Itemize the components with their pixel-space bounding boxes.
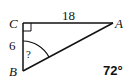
side-ab <box>23 23 113 71</box>
answer-label: 72° <box>103 63 123 78</box>
vertex-label-a: A <box>114 16 123 31</box>
triangle-diagram: C A B 18 6 ? 72° <box>0 0 138 83</box>
unknown-angle-label: ? <box>26 48 31 60</box>
right-angle-marker <box>23 23 31 31</box>
vertex-label-c: C <box>9 16 18 31</box>
vertex-label-b: B <box>9 64 17 79</box>
side-label-cb: 6 <box>9 38 16 53</box>
side-label-ca: 18 <box>62 8 75 23</box>
